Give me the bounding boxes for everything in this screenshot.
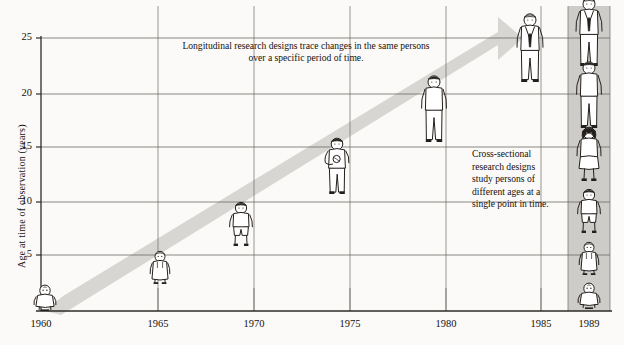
y-tick-5: 5 [16, 248, 32, 259]
x-tick-1965: 1965 [138, 318, 178, 329]
y-tick-20: 20 [16, 87, 32, 98]
x-tick-1970: 1970 [234, 318, 274, 329]
y-tick-25: 25 [16, 31, 32, 42]
x-tick-1989: 1989 [569, 318, 609, 329]
y-tick-15: 15 [16, 140, 32, 151]
longitudinal-annotation: Longitudinal research designs trace chan… [181, 40, 431, 64]
x-tick-1975: 1975 [330, 318, 370, 329]
x-tick-1980: 1980 [426, 318, 466, 329]
longitudinal-cross-sectional-figure: Age at time of observation (years) 25 20… [0, 0, 624, 345]
x-tick-1960: 1960 [21, 318, 61, 329]
y-tick-10: 10 [16, 195, 32, 206]
x-tick-1985: 1985 [521, 318, 561, 329]
cross-sectional-annotation: Cross-sectional research designs study p… [472, 148, 558, 211]
